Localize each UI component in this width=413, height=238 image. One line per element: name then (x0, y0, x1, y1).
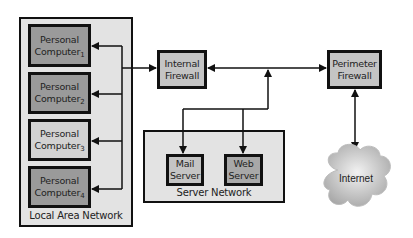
internet-label: Internet (325, 173, 387, 184)
connection-lines (0, 0, 413, 238)
